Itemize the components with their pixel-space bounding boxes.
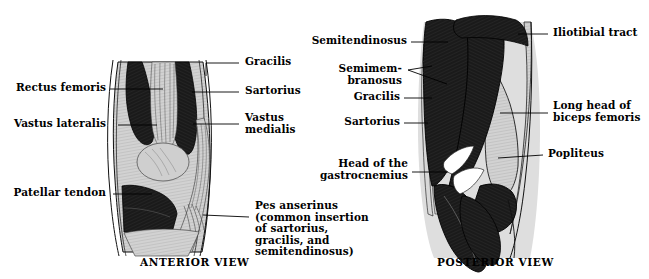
label-semitendinosus: Semitendinosus: [305, 35, 407, 47]
posterior-view-drawing: [418, 16, 540, 273]
label-head-of-gastrocnemius: Head of the gastrocnemius: [308, 158, 408, 181]
label-gracilis-posterior: Gracilis: [330, 91, 400, 103]
caption-posterior-view: POSTERIOR VIEW: [437, 256, 554, 268]
label-pes-anserinus: Pes anserinus (common insertion of sarto…: [255, 200, 369, 258]
label-popliteus: Popliteus: [548, 148, 604, 160]
label-vastus-lateralis: Vastus lateralis: [6, 118, 106, 130]
anatomy-figure: Rectus femoris Vastus lateralis Patellar…: [0, 0, 649, 279]
label-gracilis-anterior: Gracilis: [245, 56, 291, 68]
label-rectus-femoris: Rectus femoris: [14, 82, 106, 94]
label-sartorius-posterior: Sartorius: [330, 116, 400, 128]
label-sartorius-anterior: Sartorius: [245, 85, 301, 97]
label-semimembranosus: Semimem- branosus: [318, 63, 402, 86]
label-long-head-biceps-femoris: Long head of biceps femoris: [553, 100, 640, 123]
label-vastus-medialis: Vastus medialis: [245, 112, 296, 135]
caption-anterior-view: ANTERIOR VIEW: [140, 256, 249, 268]
label-patellar-tendon: Patellar tendon: [10, 187, 106, 199]
label-iliotibial-tract: Iliotibial tract: [553, 27, 638, 39]
